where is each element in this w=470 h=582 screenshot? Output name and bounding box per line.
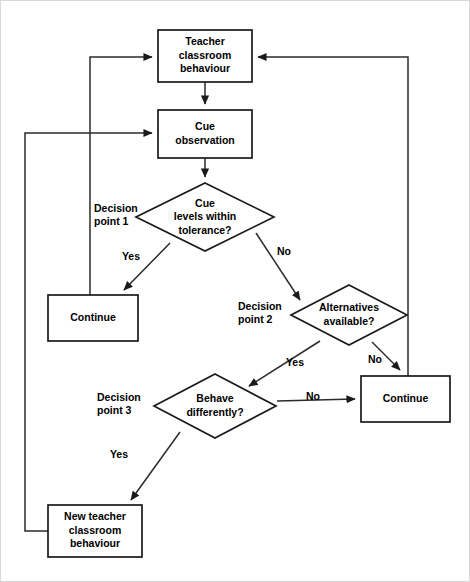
node-alternatives-decision[interactable]: Alternatives available? [291, 285, 407, 345]
flowchart-svg: Teacher classroom behaviour Cue observat… [0, 0, 470, 582]
node-new-teacher-classroom-behaviour[interactable]: New teacher classroom behaviour [48, 505, 142, 557]
node-label-line: levels within [174, 210, 236, 222]
edge-label-no-decision3: No [306, 390, 320, 402]
node-label-line: Cue [195, 197, 215, 209]
flowchart-canvas: Teacher classroom behaviour Cue observat… [0, 0, 470, 582]
node-label-line: available? [324, 315, 375, 327]
edge-label-yes-decision1: Yes [122, 250, 140, 262]
decision-point-3-line: point 3 [97, 404, 132, 416]
node-behave-differently-decision[interactable]: Behave differently? [154, 374, 276, 438]
decision-point-1-label: Decision point 1 [94, 202, 138, 228]
node-label-line: observation [175, 134, 235, 146]
node-label-line: tolerance? [178, 224, 231, 236]
decision-point-1-line: point 1 [94, 215, 129, 227]
node-continue-left[interactable]: Continue [48, 295, 138, 341]
decision-point-1-line: Decision [94, 202, 138, 214]
decision-point-2-line: Decision [238, 300, 282, 312]
edge-label-layer: Yes No Yes No No Yes [110, 245, 382, 460]
node-cue-observation[interactable]: Cue observation [158, 110, 252, 158]
edge-label-yes-decision2: Yes [286, 356, 304, 368]
node-label-line: Cue [195, 120, 215, 132]
page-frame [1, 1, 470, 582]
node-label-line: New teacher [64, 510, 126, 522]
node-cue-levels-decision[interactable]: Cue levels within tolerance? [136, 183, 274, 251]
decision-point-3-line: Decision [97, 391, 141, 403]
edge-decision3-yes-to-new-behaviour [131, 432, 180, 500]
node-label-line: classroom [179, 49, 232, 61]
decision-point-3-label: Decision point 3 [97, 391, 141, 417]
node-label-line: Continue [70, 311, 116, 323]
edge-decision2-yes-to-decision3 [249, 341, 320, 386]
edge-label-no-decision1: No [277, 245, 291, 257]
node-label-line: differently? [186, 406, 243, 418]
node-label-line: Teacher [185, 35, 225, 47]
edge-label-yes-decision3: Yes [110, 448, 128, 460]
edge-label-no-decision2: No [368, 353, 382, 365]
node-label-line: Behave [196, 392, 234, 404]
node-continue-right[interactable]: Continue [361, 376, 450, 422]
node-label-line: Alternatives [319, 301, 379, 313]
node-label-line: Continue [383, 392, 429, 404]
decision-point-2-line: point 2 [238, 313, 273, 325]
node-teacher-classroom-behaviour[interactable]: Teacher classroom behaviour [158, 30, 252, 82]
edge-decision1-no-to-decision2 [256, 233, 300, 300]
node-label-line: behaviour [70, 537, 120, 549]
node-label-line: behaviour [180, 62, 230, 74]
node-label-line: classroom [69, 524, 122, 536]
decision-point-2-label: Decision point 2 [238, 300, 282, 326]
